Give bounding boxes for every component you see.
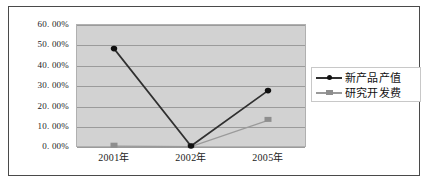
legend-line-diamond-icon	[316, 72, 342, 83]
y-axis-tick-label: 60. 00%	[0, 20, 69, 29]
gridline-30	[77, 86, 305, 87]
legend-label: 新产品产值	[345, 72, 401, 84]
legend-entry-rd-expense: 研究开发费	[316, 85, 420, 100]
gridline-10	[77, 127, 305, 128]
y-axis-tick-label: 50. 00%	[0, 40, 69, 49]
y-axis-tick-label: 10. 00%	[0, 122, 69, 131]
y-axis-tick-label: 20. 00%	[0, 102, 69, 111]
chart-legend: 新产品产值 研究开发费	[311, 67, 421, 102]
gridline-40	[77, 66, 305, 67]
x-axis-tick-label: 2005年	[223, 152, 313, 163]
gridline-20	[77, 107, 305, 108]
gridline-50	[77, 45, 305, 46]
chart-canvas: 60. 00% 50. 00% 40. 00% 30. 00% 20. 00% …	[9, 7, 421, 177]
legend-line-square-icon	[316, 87, 342, 98]
y-axis-tick-label: 0. 00%	[0, 142, 69, 151]
gridline-0	[77, 147, 305, 148]
legend-entry-new-product-value: 新产品产值	[316, 70, 420, 85]
y-axis-tick-label: 30. 00%	[0, 81, 69, 90]
gridline-60	[77, 25, 305, 26]
y-axis-tick-label: 40. 00%	[0, 61, 69, 70]
legend-label: 研究开发费	[345, 87, 401, 99]
plot-area	[76, 24, 306, 147]
chart-figure-frame: 60. 00% 50. 00% 40. 00% 30. 00% 20. 00% …	[8, 6, 420, 176]
